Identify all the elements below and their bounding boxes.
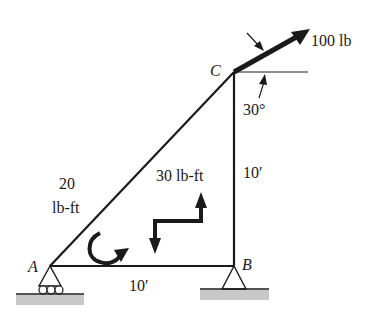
force-label: 100 lb xyxy=(311,32,351,49)
moment-label-line2: lb-ft xyxy=(52,199,80,216)
point-label-c: C xyxy=(210,62,221,79)
frame-members xyxy=(50,72,234,266)
moment-curl-icon xyxy=(90,233,130,263)
moment-label-line1: 20 xyxy=(59,175,75,192)
dimension-horizontal: 10′ xyxy=(129,277,149,294)
force-arrow-icon xyxy=(234,29,310,72)
angle-arrow-icon xyxy=(259,74,267,98)
pin-support-b xyxy=(200,266,269,300)
point-label-b: B xyxy=(242,256,252,273)
diagram-canvas: A B C 100 lb 30° 20 lb-ft 30 lb-ft 10′ 1… xyxy=(0,0,383,320)
pointer-arrow-icon xyxy=(247,33,264,51)
dimension-vertical: 10′ xyxy=(243,164,263,181)
couple-label: 30 lb-ft xyxy=(156,167,204,184)
angle-label: 30° xyxy=(243,101,265,118)
couple-z-arrow-icon xyxy=(149,192,207,254)
roller-support-a xyxy=(16,266,84,305)
point-label-a: A xyxy=(27,258,38,275)
member-ac xyxy=(50,72,234,266)
